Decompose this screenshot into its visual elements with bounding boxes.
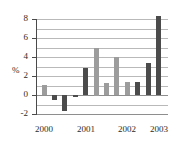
x-axis-tick-label: 2000 — [29, 124, 59, 134]
bar — [114, 57, 119, 95]
bar — [42, 85, 47, 95]
x-axis-tick-label: 2001 — [71, 124, 101, 134]
y-axis-tick-label: 4 — [4, 52, 28, 61]
x-axis-tick-label: 2003 — [144, 124, 173, 134]
y-axis-tick-label: -2 — [4, 109, 28, 118]
bar — [94, 48, 99, 96]
bar — [135, 82, 140, 95]
bar — [104, 83, 109, 95]
y-axis-tick-label: 8 — [4, 14, 28, 23]
x-axis-tick-labels: 2000200120022003 — [0, 124, 173, 138]
y-axis-tick-label: 0 — [4, 90, 28, 99]
y-axis-tick-label: 6 — [4, 33, 28, 42]
bar — [83, 68, 88, 95]
y-axis-title: % — [12, 66, 20, 75]
bar — [156, 16, 161, 95]
bar — [146, 63, 151, 95]
x-axis-tick-label: 2002 — [112, 124, 142, 134]
bar — [52, 95, 57, 100]
bar — [125, 82, 130, 95]
plot-area — [37, 19, 168, 114]
bar-chart: -202468 % 2000200120022003 — [0, 0, 173, 145]
bar — [62, 95, 67, 111]
bar — [73, 95, 78, 97]
